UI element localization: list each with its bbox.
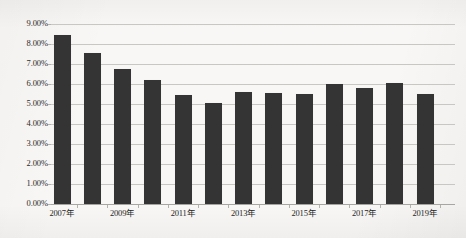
bar [235, 92, 252, 204]
bar [356, 88, 373, 204]
y-axis-tick-mark [48, 204, 51, 205]
y-axis-tick-label: 4.00% [8, 119, 48, 128]
bar-chart: 9.00%8.00%7.00%6.00%5.00%4.00%3.00%2.00%… [0, 0, 466, 238]
y-axis-tick-mark [48, 64, 51, 65]
x-axis-tick-label: 2011年 [163, 208, 203, 218]
bar [175, 95, 192, 204]
x-axis-tick-label: 2019年 [405, 208, 445, 218]
bar [205, 103, 222, 204]
y-axis-tick-label: 8.00% [8, 39, 48, 48]
y-axis-tick-mark [48, 144, 51, 145]
y-axis-tick-mark [48, 44, 51, 45]
y-axis-tick-mark [48, 164, 51, 165]
axis-baseline [51, 204, 455, 205]
bar [114, 69, 131, 204]
x-axis-tick-label: 2007年 [42, 208, 82, 218]
gridline [51, 64, 455, 65]
y-axis-tick-label: 3.00% [8, 139, 48, 148]
x-axis-tick-label: 2017年 [345, 208, 385, 218]
y-axis-labels: 9.00%8.00%7.00%6.00%5.00%4.00%3.00%2.00%… [8, 0, 48, 238]
bar [326, 84, 343, 204]
bar [84, 53, 101, 204]
y-axis-tick-mark [48, 124, 51, 125]
y-axis-tick-label: 5.00% [8, 99, 48, 108]
bar [386, 83, 403, 204]
y-axis-tick-mark [48, 184, 51, 185]
y-axis-tick-mark [48, 104, 51, 105]
x-axis-tick-label: 2009年 [103, 208, 143, 218]
bar [296, 94, 313, 204]
gridline [51, 44, 455, 45]
y-axis-tick-label: 9.00% [8, 19, 48, 28]
y-axis-tick-mark [48, 24, 51, 25]
bar [144, 80, 161, 204]
y-axis-tick-label: 1.00% [8, 179, 48, 188]
y-axis-tick-label: 7.00% [8, 59, 48, 68]
gridline [51, 24, 455, 25]
y-axis-tick-label: 0.00% [8, 199, 48, 208]
y-axis-tick-mark [48, 84, 51, 85]
y-axis-tick-label: 6.00% [8, 79, 48, 88]
x-axis-tick-label: 2013年 [224, 208, 264, 218]
x-axis-tick-label: 2015年 [284, 208, 324, 218]
bar [265, 93, 282, 204]
y-axis-tick-label: 2.00% [8, 159, 48, 168]
bar [417, 94, 434, 204]
bar [54, 35, 71, 204]
